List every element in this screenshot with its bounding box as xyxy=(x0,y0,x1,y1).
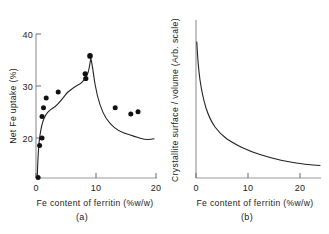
chart-a-caption: (a) xyxy=(0,212,164,222)
chart-a-fit-curve xyxy=(37,59,154,179)
data-point xyxy=(83,71,88,76)
figure-container: 40 30 20 0 10 20 xyxy=(0,0,329,234)
chart-a-x-axis-title: Fe content of ferritin (%w/w) xyxy=(36,198,153,208)
chart-b-svg: 0 10 20 Crystallite surface / volume (Ar… xyxy=(165,0,329,210)
chart-a-y-axis-title: Net Fe uptake (%) xyxy=(8,68,18,144)
data-point xyxy=(113,105,118,110)
chart-a-svg: 40 30 20 0 10 20 xyxy=(0,0,164,210)
data-point xyxy=(83,76,88,81)
chart-b-xticklabel-20: 20 xyxy=(295,183,305,193)
data-point xyxy=(44,95,49,100)
chart-b-curve xyxy=(197,42,320,166)
data-point xyxy=(37,143,42,148)
chart-a-yticklabel-20: 20 xyxy=(23,134,33,144)
chart-a-xticklabel-10: 10 xyxy=(91,183,101,193)
chart-b-caption: (b) xyxy=(165,212,329,222)
data-point xyxy=(36,175,41,180)
chart-a-yticklabel-40: 40 xyxy=(23,30,33,40)
chart-a-yticklabel-30: 30 xyxy=(23,82,33,92)
chart-panel-b: 0 10 20 Crystallite surface / volume (Ar… xyxy=(165,0,329,234)
chart-a-xticklabel-0: 0 xyxy=(33,183,38,193)
data-point xyxy=(56,90,61,95)
data-point xyxy=(40,114,45,119)
data-point xyxy=(128,111,133,116)
data-point xyxy=(40,136,45,141)
chart-b-xticklabel-0: 0 xyxy=(193,183,198,193)
chart-b-y-axis-title: Crystallite surface / volume (Arb. scale… xyxy=(170,18,180,182)
data-point xyxy=(41,105,46,110)
data-point xyxy=(136,109,141,114)
chart-panel-a: 40 30 20 0 10 20 xyxy=(0,0,164,234)
chart-a-xticklabel-20: 20 xyxy=(151,183,161,193)
data-point xyxy=(87,53,93,59)
chart-b-x-axis-title: Fe content of ferritin (%w/w) xyxy=(196,198,313,208)
chart-b-xticklabel-10: 10 xyxy=(243,183,253,193)
